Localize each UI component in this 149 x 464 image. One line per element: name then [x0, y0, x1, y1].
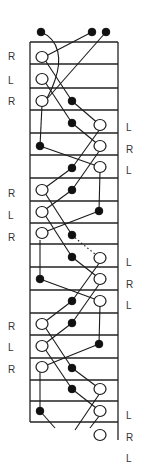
- open-circle-node: [94, 162, 106, 173]
- right-label: L: [126, 410, 132, 421]
- left-label: L: [8, 210, 14, 221]
- right-label: R: [126, 279, 133, 290]
- right-label: R: [126, 144, 133, 155]
- left-label: R: [8, 51, 15, 62]
- filled-dot-node: [68, 186, 76, 194]
- right-label: L: [126, 165, 132, 176]
- open-circle-node: [36, 96, 48, 107]
- filled-dot-node: [95, 340, 103, 348]
- left-label: R: [8, 96, 15, 107]
- braid-diagram: RLRRLRRLRLRLLRLLRL: [0, 0, 149, 464]
- filled-dot-node: [68, 231, 76, 239]
- open-circle-node: [94, 141, 106, 152]
- left-label: R: [8, 232, 15, 243]
- open-circle-node: [36, 362, 48, 373]
- right-label: L: [126, 300, 132, 311]
- filled-dot-node: [68, 385, 76, 393]
- connection-line: [99, 171, 100, 211]
- diagram-canvas: RLRRLRRLRLRLLRLLRL: [0, 0, 149, 464]
- left-label: R: [8, 321, 15, 332]
- right-label: L: [126, 453, 132, 464]
- filled-dot-node: [95, 207, 103, 215]
- open-circle-node: [36, 185, 48, 196]
- open-circle-node: [36, 207, 48, 218]
- open-circle-node: [94, 296, 106, 307]
- open-circle-node: [36, 74, 48, 85]
- filled-dot-node: [68, 97, 76, 105]
- connection-line: [40, 146, 100, 167]
- open-circle-node: [94, 274, 106, 285]
- left-label: R: [8, 364, 15, 375]
- filled-dot-node: [68, 253, 76, 261]
- open-circle-node: [36, 228, 48, 239]
- open-circle-node: [36, 341, 48, 352]
- filled-dot-node: [36, 407, 44, 415]
- filled-dot-node: [36, 275, 44, 283]
- filled-dot-node: [68, 364, 76, 372]
- open-circle-node: [94, 120, 106, 131]
- connection-line: [99, 305, 100, 344]
- right-label: R: [126, 432, 133, 443]
- filled-dot-node: [37, 28, 45, 36]
- filled-dot-node: [68, 119, 76, 127]
- filled-dot-node: [68, 164, 76, 172]
- connection-line: [40, 105, 42, 146]
- right-label: L: [126, 257, 132, 268]
- connection-line: [46, 32, 92, 56]
- filled-dot-node: [68, 319, 76, 327]
- left-label: L: [8, 75, 14, 86]
- open-circle-node: [36, 319, 48, 330]
- open-circle-node: [94, 253, 106, 264]
- nodes: [36, 28, 110, 440]
- left-label: R: [8, 188, 15, 199]
- filled-dot-node: [88, 28, 96, 36]
- left-label: L: [8, 342, 14, 353]
- open-circle-node: [36, 52, 48, 63]
- filled-dot-node: [68, 297, 76, 305]
- connection-line: [42, 211, 99, 233]
- open-circle-node: [94, 406, 106, 417]
- filled-dot-node: [36, 142, 44, 150]
- connection-line: [42, 344, 99, 367]
- open-circle-node: [94, 430, 106, 441]
- open-circle-node: [94, 384, 106, 395]
- filled-dot-node: [102, 28, 110, 36]
- right-label: L: [126, 122, 132, 133]
